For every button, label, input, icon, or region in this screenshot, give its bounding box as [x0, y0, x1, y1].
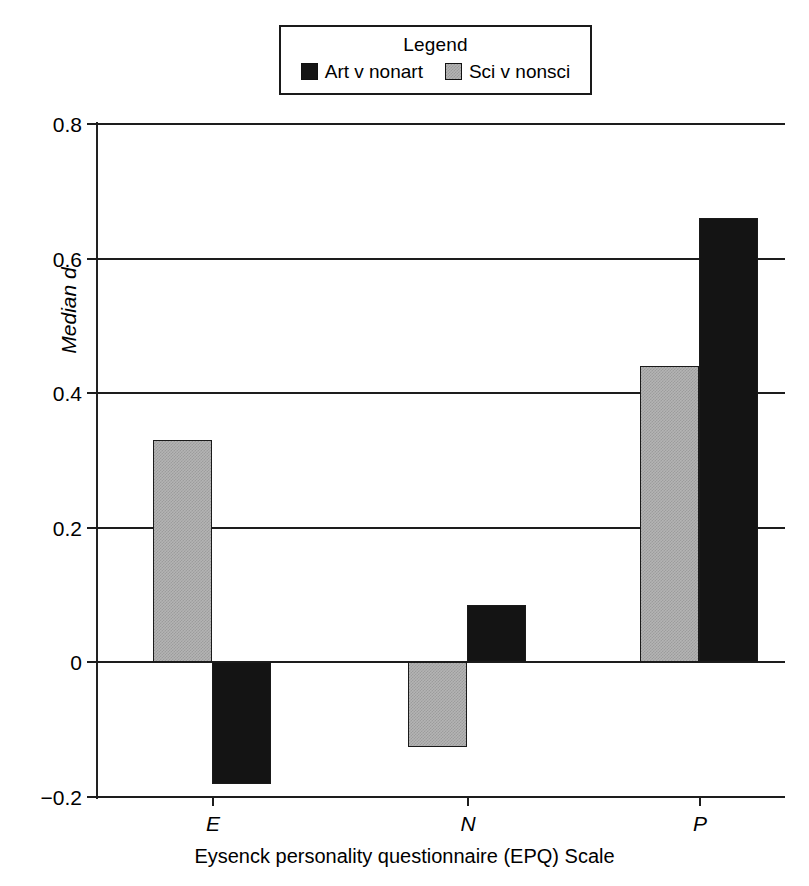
black-square-icon	[301, 63, 318, 80]
y-tick-0.6	[87, 258, 96, 260]
bar-E-sci-v-nonsci	[153, 440, 212, 662]
y-tick-label-0.2: 0.2	[53, 517, 82, 538]
y-tick-label-0.8: 0.8	[53, 114, 82, 135]
y-tick-label-0: 0	[70, 652, 82, 673]
bar-N-sci-v-nonsci	[408, 662, 467, 746]
x-tick-label-E: E	[206, 813, 220, 834]
gray-square-icon	[445, 63, 462, 80]
gridline-y--0.2	[96, 796, 785, 798]
legend-label-sci-v-nonsci: Sci v nonsci	[469, 62, 570, 81]
x-axis-title: Eysenck personality questionnaire (EPQ) …	[0, 846, 809, 866]
x-tick-label-P: P	[693, 813, 707, 834]
legend-title: Legend	[281, 35, 590, 54]
y-tick-0.4	[87, 392, 96, 394]
x-tick-P	[699, 797, 701, 806]
x-tick-label-N: N	[460, 813, 475, 834]
bar-N-art-v-nonart	[467, 605, 526, 662]
bar-P-sci-v-nonsci	[640, 366, 699, 662]
legend-entry-art-v-nonart: Art v nonart	[301, 62, 423, 81]
legend-label-art-v-nonart: Art v nonart	[325, 62, 423, 81]
legend-entry-sci-v-nonsci: Sci v nonsci	[445, 62, 570, 81]
bar-E-art-v-nonart	[212, 662, 271, 783]
chart-legend: Legend Art v nonart Sci v nonsci	[279, 25, 592, 95]
legend-entries: Art v nonart Sci v nonsci	[281, 62, 590, 81]
x-tick-N	[467, 797, 469, 806]
y-tick-0.2	[87, 527, 96, 529]
y-tick-label--0.2: −0.2	[41, 787, 82, 808]
y-tick-0.8	[87, 123, 96, 125]
bar-P-art-v-nonart	[699, 218, 758, 662]
y-axis-title: Median d	[58, 231, 79, 391]
plot-area: 0.80.60.40.20−0.2 ENP	[96, 124, 785, 797]
y-tick-0	[87, 661, 96, 663]
gridline-y-0.6	[96, 258, 785, 260]
x-tick-E	[212, 797, 214, 806]
gridline-y-0.8	[96, 123, 785, 125]
y-tick--0.2	[87, 796, 96, 798]
